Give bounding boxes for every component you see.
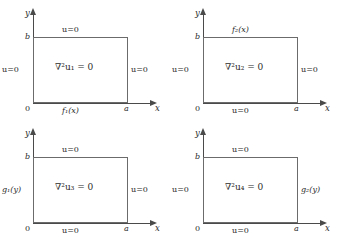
y-tick-label-b: b xyxy=(25,152,30,161)
boundary-label-left: g₁(y) xyxy=(2,185,21,194)
laplace-boundary-value-figure: y x b a 0 u=0 f₁(x) u=0 u=0 ∇²u₁ = 0 y x… xyxy=(0,0,340,249)
origin-label: 0 xyxy=(195,104,200,113)
boundary-label-bottom: f₁(x) xyxy=(62,106,79,115)
boundary-label-left: u=0 xyxy=(172,65,189,74)
boundary-label-left: u=0 xyxy=(172,185,189,194)
boundary-label-bottom: u=0 xyxy=(232,226,249,235)
boundary-label-right: u=0 xyxy=(301,65,318,74)
x-tick-label-a: a xyxy=(124,224,129,233)
y-axis-arrow-icon xyxy=(200,128,206,135)
boundary-label-top: u=0 xyxy=(232,145,249,154)
boundary-label-right: g₂(y) xyxy=(301,185,320,194)
interior-equation: ∇²u₂ = 0 xyxy=(225,63,263,72)
y-axis-arrow-icon xyxy=(30,128,36,135)
panel-3: y x b a 0 u=0 u=0 g₁(y) u=0 ∇²u₃ = 0 xyxy=(0,120,170,244)
boundary-label-left: u=0 xyxy=(2,65,19,74)
x-axis-line xyxy=(203,103,323,104)
interior-equation: ∇²u₁ = 0 xyxy=(55,63,93,72)
x-axis-line xyxy=(33,103,153,104)
boundary-label-right: u=0 xyxy=(131,185,148,194)
y-tick-label-b: b xyxy=(195,152,200,161)
y-axis-label: y xyxy=(25,129,30,138)
origin-label: 0 xyxy=(25,104,30,113)
panel-2: y x b a 0 f₂(x) u=0 u=0 u=0 ∇²u₂ = 0 xyxy=(170,0,340,124)
panel-4: y x b a 0 u=0 u=0 u=0 g₂(y) ∇²u₄ = 0 xyxy=(170,120,340,244)
y-tick-label-b: b xyxy=(195,32,200,41)
y-axis-label: y xyxy=(195,9,200,18)
x-axis-label: x xyxy=(325,104,330,113)
interior-equation: ∇²u₄ = 0 xyxy=(225,183,263,192)
y-axis-label: y xyxy=(195,129,200,138)
x-tick-label-a: a xyxy=(124,104,129,113)
y-tick-label-b: b xyxy=(25,32,30,41)
interior-equation: ∇²u₃ = 0 xyxy=(55,183,93,192)
x-tick-label-a: a xyxy=(294,224,299,233)
boundary-label-top: f₂(x) xyxy=(232,25,249,34)
y-axis-arrow-icon xyxy=(200,8,206,15)
panel-1: y x b a 0 u=0 f₁(x) u=0 u=0 ∇²u₁ = 0 xyxy=(0,0,170,124)
x-tick-label-a: a xyxy=(294,104,299,113)
boundary-label-bottom: u=0 xyxy=(62,226,79,235)
boundary-label-right: u=0 xyxy=(131,65,148,74)
boundary-label-top: u=0 xyxy=(62,25,79,34)
x-axis-line xyxy=(33,223,153,224)
x-axis-label: x xyxy=(325,224,330,233)
origin-label: 0 xyxy=(25,224,30,233)
origin-label: 0 xyxy=(195,224,200,233)
y-axis-arrow-icon xyxy=(30,8,36,15)
y-axis-label: y xyxy=(25,9,30,18)
boundary-label-top: u=0 xyxy=(62,145,79,154)
x-axis-label: x xyxy=(155,224,160,233)
x-axis-line xyxy=(203,223,323,224)
x-axis-label: x xyxy=(155,104,160,113)
boundary-label-bottom: u=0 xyxy=(232,106,249,115)
